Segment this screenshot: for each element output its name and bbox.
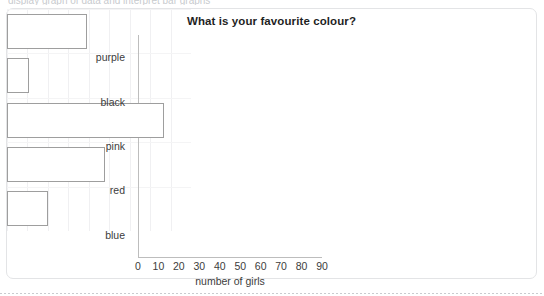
x-tick-label-10: 10 xyxy=(148,260,168,273)
x-tick-label-60: 60 xyxy=(251,260,271,273)
x-tick-label-40: 40 xyxy=(210,260,230,273)
y-tick-label-purple: purple xyxy=(96,51,125,63)
page-divider xyxy=(0,293,544,294)
y-tick-label-blue: blue xyxy=(105,229,125,241)
y-tick-label-pink: pink xyxy=(106,140,125,152)
x-axis-tick-labels: 0102030405060708090 xyxy=(138,260,328,274)
x-tick-label-0: 0 xyxy=(128,260,148,273)
y-tick-label-black: black xyxy=(100,96,125,108)
x-tick-label-20: 20 xyxy=(169,260,189,273)
y-tick-label-red: red xyxy=(110,184,125,196)
x-tick-label-50: 50 xyxy=(230,260,250,273)
screenshot-root: display graph of data and interpret bar … xyxy=(0,0,544,296)
chart-card: What is your favourite colour? purplebla… xyxy=(6,8,537,279)
clipped-page-text: display graph of data and interpret bar … xyxy=(8,0,308,5)
x-tick-label-90: 90 xyxy=(312,260,332,273)
x-axis-title: number of girls xyxy=(138,275,322,287)
x-axis-line xyxy=(138,257,322,258)
y-axis-tick-labels: purpleblackpinkredblue xyxy=(7,35,133,257)
x-tick-label-30: 30 xyxy=(189,260,209,273)
x-tick-label-80: 80 xyxy=(292,260,312,273)
x-tick-label-70: 70 xyxy=(271,260,291,273)
